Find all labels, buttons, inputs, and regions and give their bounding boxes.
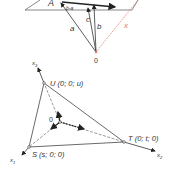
label-S: S (s; 0; 0) — [32, 150, 65, 159]
point-S — [28, 146, 31, 149]
label-O: 0 — [49, 116, 53, 123]
label-A: A — [47, 0, 54, 8]
origin-point — [95, 51, 98, 54]
label-b-minus-a: b-a — [66, 5, 73, 11]
label-a: a — [70, 24, 75, 33]
plane-red-edge — [96, 0, 138, 52]
label-x3: x3 — [31, 60, 38, 68]
diagram-canvas: A b-a a c b x 0 x3 U (0; 0; u) 0 T (0; t… — [0, 0, 175, 175]
vec-O-x1 — [51, 122, 60, 129]
vec-O-x2 — [60, 122, 84, 129]
label-c: c — [86, 15, 90, 24]
point-U — [43, 82, 46, 85]
label-x: x — [123, 21, 129, 30]
point-T — [123, 141, 126, 144]
top-figure: A b-a a c b x 0 — [25, 0, 138, 64]
label-origin-top: 0 — [94, 57, 98, 64]
bottom-figure: x3 U (0; 0; u) 0 T (0; t; 0) S (s; 0; 0)… — [9, 60, 163, 165]
label-T: T (0; t; 0) — [128, 134, 159, 143]
label-b: b — [97, 22, 102, 31]
label-U: U (0; 0; u) — [50, 79, 84, 88]
axis-x3 — [38, 68, 44, 83]
plane-outline — [25, 0, 138, 10]
label-x2: x2 — [156, 152, 163, 160]
label-x1: x1 — [9, 157, 15, 165]
axis-x2 — [124, 142, 155, 151]
point-O — [59, 121, 62, 124]
